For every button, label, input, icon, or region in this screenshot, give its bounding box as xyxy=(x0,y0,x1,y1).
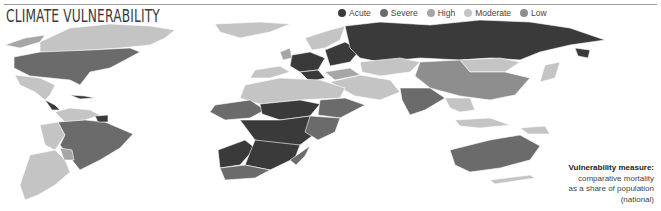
region-png xyxy=(520,126,550,134)
region-kamchatka xyxy=(575,48,590,58)
region-central-asia xyxy=(360,58,420,76)
note-line: as a share of population xyxy=(569,184,654,193)
region-mongolia xyxy=(460,58,520,72)
region-argentina-chile xyxy=(20,150,70,200)
region-brazil xyxy=(58,120,133,170)
note-line: comparative mortality xyxy=(578,174,654,183)
region-east-africa-horn xyxy=(318,98,365,118)
note-line: (national) xyxy=(621,195,654,204)
region-uk xyxy=(280,48,292,60)
region-alaska xyxy=(5,35,45,48)
region-japan xyxy=(540,62,560,82)
region-colombia-venezuela xyxy=(55,108,100,122)
region-indonesia xyxy=(455,118,510,128)
region-india xyxy=(400,88,445,115)
world-map xyxy=(0,0,661,211)
region-australia xyxy=(450,135,540,172)
region-southeast-asia xyxy=(445,98,475,112)
region-central-america xyxy=(45,100,60,110)
region-western-europe xyxy=(290,52,325,72)
vulnerability-note: Vulnerability measure: comparative morta… xyxy=(568,163,654,205)
note-heading: Vulnerability measure: xyxy=(568,163,654,172)
region-caribbean xyxy=(70,95,95,99)
region-iberia xyxy=(250,66,290,78)
region-new-zealand xyxy=(490,175,535,184)
region-russia xyxy=(345,20,605,62)
region-southern-africa-east xyxy=(245,140,300,170)
region-mexico xyxy=(15,75,55,100)
region-greenland xyxy=(215,22,290,38)
region-canada xyxy=(40,24,175,52)
